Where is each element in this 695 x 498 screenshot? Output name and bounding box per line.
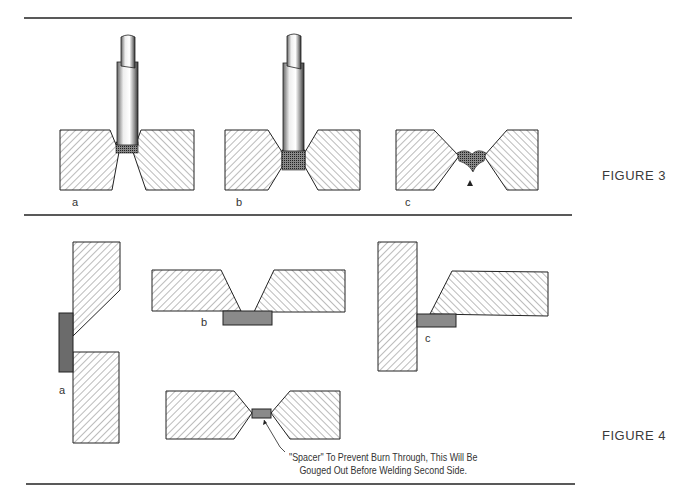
fig3c-label: c — [405, 196, 411, 208]
spacer-note-line1: "Spacer" To Prevent Burn Through, This W… — [289, 451, 477, 464]
fig3a-diagram — [60, 35, 194, 190]
fig4c-label: c — [425, 332, 431, 344]
spacer-note: "Spacer" To Prevent Burn Through, This W… — [289, 451, 477, 477]
fig4b-label: b — [201, 316, 207, 328]
welding-diagram — [0, 0, 695, 498]
fig3b-diagram — [225, 34, 360, 190]
figure-3-title: FIGURE 3 — [602, 168, 666, 183]
spacer-note-line2: Gouged Out Before Welding Second Side. — [289, 464, 477, 477]
fig3b-label: b — [236, 196, 242, 208]
fig4c-diagram — [378, 242, 548, 371]
fig3a-label: a — [72, 196, 78, 208]
figure-4-title: FIGURE 4 — [602, 428, 666, 443]
fig4b-diagram — [152, 270, 345, 325]
fig4-spacer-diagram — [166, 391, 340, 452]
fig3c-diagram — [396, 130, 538, 190]
fig4a-diagram — [59, 242, 120, 443]
fig4a-label: a — [59, 384, 65, 396]
